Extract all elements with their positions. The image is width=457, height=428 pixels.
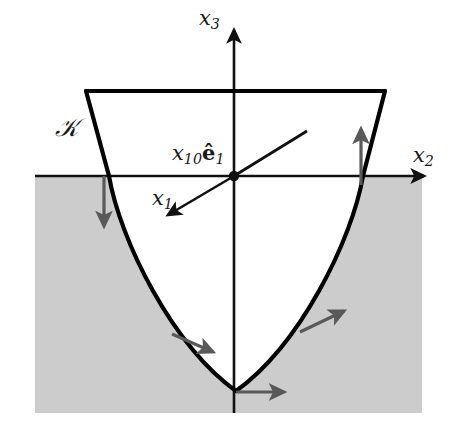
point-label-x10e1: x10ê1 xyxy=(172,142,224,166)
axis-label-x2: x2 xyxy=(413,145,434,168)
axis-label-x1: x1 xyxy=(152,188,173,211)
origin-point-marker xyxy=(229,171,239,181)
cone-label-k: 𝒦 xyxy=(55,115,78,140)
figure-container: x3 x2 x1 x10ê1 𝒦 xyxy=(0,0,457,428)
axis-label-x3: x3 xyxy=(199,8,220,31)
cone-diagram-svg xyxy=(0,0,457,428)
